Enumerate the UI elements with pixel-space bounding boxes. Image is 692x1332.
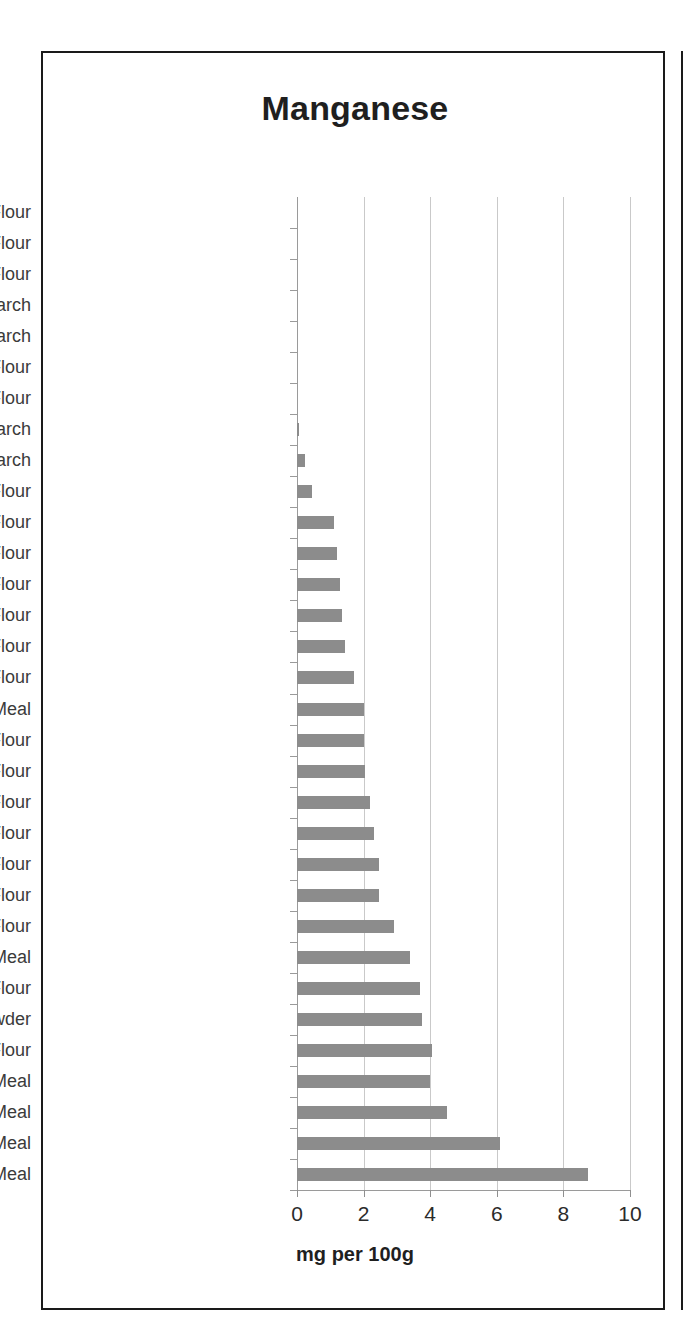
y-tick [290,787,297,788]
category-label: Millet Flour [0,662,31,693]
y-tick [290,600,297,601]
bar-row [297,569,630,600]
bar-row [297,1004,630,1035]
bar-row [297,321,630,352]
y-tick [290,849,297,850]
bar-row [297,383,630,414]
bar-row [297,600,630,631]
bar [297,1044,432,1057]
category-label: Pine Nut Meal [0,1159,31,1190]
chart-frame: Manganese Coconut FlourPure Oat* FlourSw… [41,51,665,1310]
bar [297,858,379,871]
y-tick [290,259,297,260]
category-label: White Rice Flour [0,538,31,569]
bar-row [297,973,630,1004]
x-tick-label: 0 [267,1202,327,1226]
x-tick [364,1190,365,1197]
bar-row [297,818,630,849]
bar-row [297,259,630,290]
y-tick [290,538,297,539]
category-label: Corn Starch [0,414,31,445]
x-tick [563,1190,564,1197]
y-tick [290,476,297,477]
bar-row [297,352,630,383]
y-tick [290,1190,297,1191]
bar [297,827,374,840]
category-label: Almond Flour [0,880,31,911]
y-tick [290,662,297,663]
bar [297,1075,430,1088]
y-tick [290,1128,297,1129]
category-label: Hazelnut Meal [0,1128,31,1159]
category-label: Corn Flour [0,476,31,507]
y-tick [290,414,297,415]
bar [297,1106,447,1119]
y-tick [290,756,297,757]
bar-row [297,476,630,507]
category-label: Garfava Flour [0,756,31,787]
chart-page: Manganese Coconut FlourPure Oat* FlourSw… [0,0,692,1332]
bar-row [297,942,630,973]
bar [297,889,379,902]
x-axis-line [297,1190,631,1191]
x-tick [297,1190,298,1197]
y-tick [290,1066,297,1067]
x-tick-label: 2 [334,1202,394,1226]
bar-row [297,228,630,259]
category-label: Pure Oat* Flour [0,228,31,259]
x-tick-label: 10 [600,1202,660,1226]
category-label: Macadamia Nut Meal [0,1066,31,1097]
bar-row [297,445,630,476]
bar [297,454,305,467]
bar [297,703,364,716]
category-label: Potato Starch [0,290,31,321]
bar-row [297,290,630,321]
bar [297,951,410,964]
category-label: Sorghum Flour [0,352,31,383]
bar-row [297,911,630,942]
category-label: Amaranth Flour [0,818,31,849]
bar-row [297,538,630,569]
y-tick [290,725,297,726]
category-label: Quinoa Flour [0,725,31,756]
bar-row [297,849,630,880]
y-tick [290,1004,297,1005]
bar-row [297,197,630,228]
category-label: Coconut Flour [0,197,31,228]
category-label: Chickpea Flour [0,787,31,818]
bar [297,982,420,995]
y-tick [290,1097,297,1098]
y-tick [290,694,297,695]
category-label: Cocoa Powder [0,1004,31,1035]
bar-row [297,880,630,911]
bar-row [297,507,630,538]
y-tick [290,352,297,353]
adjacent-panel-edge [681,51,692,1310]
category-label: Pumpkin Seed Meal [0,1097,31,1128]
category-label: DF Peanut Flour [0,911,31,942]
bar [297,671,354,684]
bar-row [297,725,630,756]
y-tick [290,942,297,943]
category-label: Brown Rice Flour [0,973,31,1004]
y-tick [290,321,297,322]
category-label: Buckwheat Flour [0,600,31,631]
gridline-10 [630,197,631,1190]
category-label: Tapioca Starch [0,321,31,352]
y-tick [290,1159,297,1160]
bar [297,485,312,498]
category-label: Sunflower Seed Meal [0,694,31,725]
y-tick [290,383,297,384]
category-label: Teff Flour [0,383,31,414]
bar-row [297,1097,630,1128]
x-tick-label: 4 [400,1202,460,1226]
y-tick [290,569,297,570]
bar [297,516,334,529]
y-tick [290,445,297,446]
y-tick [290,507,297,508]
y-tick [290,1035,297,1036]
bar [297,1137,500,1150]
bar [297,734,364,747]
x-tick [497,1190,498,1197]
x-tick-label: 6 [467,1202,527,1226]
